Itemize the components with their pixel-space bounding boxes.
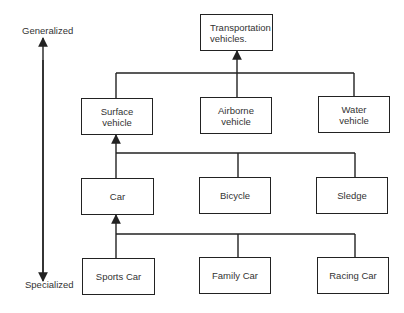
node-car: Car bbox=[81, 178, 154, 215]
node-racing-car: Racing Car bbox=[317, 257, 389, 294]
node-bicycle: Bicycle bbox=[199, 177, 271, 214]
node-surface-vehicle: Surface vehicle bbox=[81, 98, 153, 135]
generalized-label: Generalized bbox=[22, 25, 73, 36]
node-sledge: Sledge bbox=[316, 177, 388, 214]
specialized-label: Specialized bbox=[25, 279, 74, 290]
node-transportation-vehicles: Transportation vehicles. bbox=[200, 14, 273, 51]
node-airborne-vehicle: Airborne vehicle bbox=[200, 97, 272, 134]
node-family-car: Family Car bbox=[199, 257, 271, 294]
node-sports-car: Sports Car bbox=[82, 258, 155, 295]
node-water-vehicle: Water vehicle bbox=[318, 96, 390, 133]
